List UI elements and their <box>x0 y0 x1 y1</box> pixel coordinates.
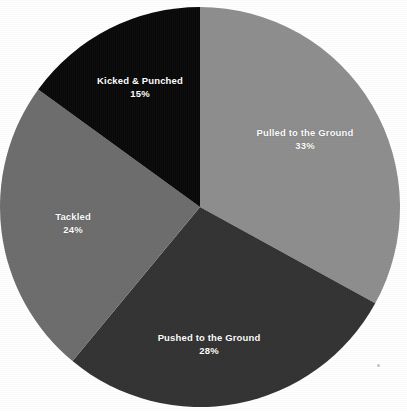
pie-chart-canvas <box>0 0 407 411</box>
scan-speck <box>377 364 380 367</box>
pie-chart: Pulled to the Ground 33% Pushed to the G… <box>0 0 407 411</box>
pie-slices-group <box>0 7 400 407</box>
